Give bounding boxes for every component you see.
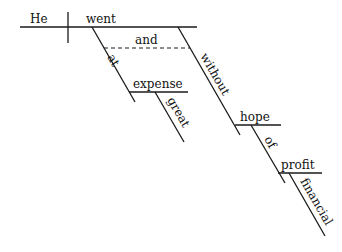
obj-hope-word: hope [240,110,270,124]
mod-great-word: great [164,95,192,130]
subject-word: He [30,12,48,26]
conjunction-word: and [135,33,158,47]
prep-of-word: of [261,134,280,152]
prep-of-line [251,125,285,183]
obj-profit-word: profit [281,158,315,172]
obj-expense-word: expense [133,77,183,91]
sentence-diagram: He went at expense great and without hop… [0,0,342,252]
verb-word: went [86,12,116,26]
